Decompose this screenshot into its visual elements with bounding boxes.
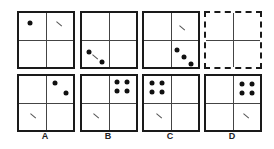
dot-icon [53,81,58,86]
diagonal-dash-icon [56,21,62,27]
dot-icon [250,82,255,87]
diagonal-dash-icon [93,113,99,119]
diagonal-dash-icon [179,25,185,31]
dot-icon [160,81,165,86]
diagonal-dash-icon [92,54,98,60]
dot-icon [240,91,245,96]
dot-icon [189,62,194,67]
diagonal-dash-icon [243,113,249,119]
dot-icon [250,91,255,96]
option-label-b: B [79,131,137,141]
horizontal-divider [82,103,136,104]
question-box-3 [142,11,200,69]
dot-icon [125,80,130,85]
dot-icon [115,89,120,94]
dot-icon [240,82,245,87]
question-box-2 [80,11,138,69]
question-box-1 [17,11,75,69]
dot-icon [150,81,155,86]
option-box-a[interactable] [17,74,75,132]
horizontal-divider [144,103,198,104]
dot-icon [28,21,33,26]
dot-icon [150,90,155,95]
option-box-c[interactable] [142,74,200,132]
missing-answer-box [204,11,262,69]
horizontal-divider [19,103,73,104]
horizontal-divider [206,103,260,104]
horizontal-divider [206,40,260,41]
option-box-d[interactable] [204,74,262,132]
horizontal-divider [19,40,73,41]
horizontal-divider [82,40,136,41]
option-label-c: C [141,131,199,141]
option-label-d: D [203,131,261,141]
dot-icon [160,90,165,95]
dot-icon [125,89,130,94]
option-label-a: A [16,131,74,141]
diagonal-dash-icon [156,113,162,119]
dot-icon [115,80,120,85]
dot-icon [100,60,105,65]
dot-icon [182,55,187,60]
option-box-b[interactable] [80,74,138,132]
horizontal-divider [144,40,198,41]
diagonal-dash-icon [30,113,36,119]
dot-icon [175,48,180,53]
dot-icon [87,50,92,55]
dot-icon [64,91,69,96]
